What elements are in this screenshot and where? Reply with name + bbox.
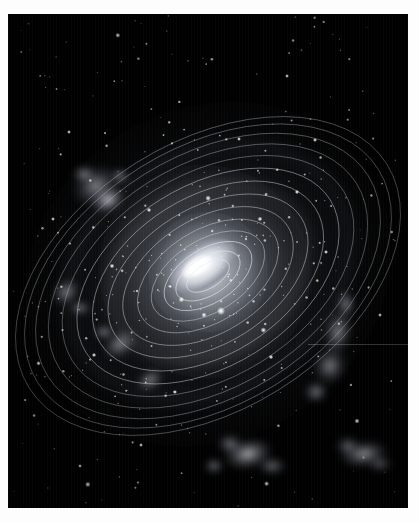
bright-star bbox=[378, 313, 382, 317]
star bbox=[84, 269, 86, 271]
star bbox=[66, 41, 67, 42]
star bbox=[178, 101, 180, 103]
star bbox=[285, 111, 287, 113]
star bbox=[144, 151, 145, 152]
star bbox=[44, 376, 46, 378]
star bbox=[291, 232, 292, 233]
star bbox=[59, 153, 62, 156]
star bbox=[168, 234, 170, 236]
star bbox=[339, 39, 340, 40]
star bbox=[283, 240, 285, 242]
star bbox=[82, 370, 84, 372]
star bbox=[107, 226, 108, 227]
star bbox=[194, 492, 195, 493]
star bbox=[313, 262, 315, 264]
star bbox=[204, 172, 205, 173]
star bbox=[306, 232, 307, 233]
star bbox=[337, 322, 341, 326]
star bbox=[363, 199, 364, 200]
bright-star bbox=[110, 264, 115, 269]
bright-star bbox=[147, 208, 152, 213]
star bbox=[361, 238, 362, 239]
star bbox=[187, 428, 188, 429]
star bbox=[60, 285, 63, 288]
star bbox=[263, 222, 265, 224]
star bbox=[139, 320, 141, 322]
star bbox=[178, 214, 180, 216]
star bbox=[200, 309, 201, 310]
star bbox=[201, 339, 202, 340]
star bbox=[89, 179, 92, 182]
star bbox=[57, 287, 58, 288]
star bbox=[283, 295, 284, 296]
star bbox=[227, 276, 229, 278]
star bbox=[126, 191, 127, 192]
star bbox=[263, 289, 265, 291]
bright-star bbox=[92, 353, 96, 357]
star bbox=[310, 324, 311, 325]
star bbox=[28, 23, 30, 25]
star bbox=[116, 322, 117, 323]
star bbox=[22, 443, 23, 444]
star bbox=[95, 277, 96, 278]
star bbox=[323, 169, 324, 170]
plate-scratch-line bbox=[308, 344, 408, 345]
star bbox=[57, 232, 59, 234]
plate-inner bbox=[8, 14, 408, 508]
star bbox=[94, 313, 96, 315]
star bbox=[394, 491, 395, 492]
star bbox=[166, 392, 167, 393]
star bbox=[249, 294, 251, 296]
star bbox=[281, 364, 282, 365]
star bbox=[132, 339, 133, 340]
star bbox=[137, 481, 139, 483]
star bbox=[218, 169, 220, 171]
star bbox=[161, 253, 162, 254]
star bbox=[241, 236, 242, 237]
star bbox=[172, 54, 173, 55]
star bbox=[362, 90, 364, 92]
star bbox=[136, 290, 138, 292]
star bbox=[288, 181, 290, 183]
star bbox=[29, 49, 30, 50]
star bbox=[121, 61, 123, 63]
star bbox=[319, 156, 322, 159]
star bbox=[134, 487, 136, 489]
star bbox=[332, 287, 335, 290]
star bbox=[323, 294, 324, 295]
star bbox=[370, 194, 372, 196]
star bbox=[190, 350, 191, 351]
star bbox=[320, 262, 322, 264]
star bbox=[270, 236, 271, 237]
star bbox=[340, 50, 342, 52]
star bbox=[171, 371, 172, 372]
star bbox=[322, 21, 324, 23]
star bbox=[310, 118, 312, 120]
star bbox=[134, 20, 135, 21]
star bbox=[114, 395, 117, 398]
star bbox=[197, 149, 199, 151]
star bbox=[91, 225, 95, 229]
star bbox=[145, 43, 147, 45]
star bbox=[111, 276, 113, 278]
star bbox=[109, 313, 110, 314]
star bbox=[138, 302, 140, 304]
star bbox=[225, 138, 227, 140]
star bbox=[146, 186, 147, 187]
star bbox=[51, 261, 52, 262]
star bbox=[356, 142, 357, 143]
star bbox=[123, 256, 125, 258]
star bbox=[272, 124, 273, 125]
star bbox=[32, 302, 33, 303]
star bbox=[36, 361, 41, 366]
star bbox=[237, 274, 238, 275]
star bbox=[184, 249, 186, 251]
star bbox=[350, 384, 352, 386]
star bbox=[93, 301, 94, 302]
star bbox=[24, 316, 25, 317]
star bbox=[226, 187, 228, 189]
star bbox=[339, 409, 340, 410]
star bbox=[233, 294, 234, 295]
star bbox=[294, 16, 296, 18]
star bbox=[357, 337, 358, 338]
